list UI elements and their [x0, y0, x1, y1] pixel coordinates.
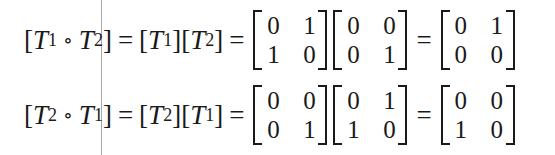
matrix-result: 0 1 0 0 [441, 10, 515, 70]
matrix-cell: 0 [489, 42, 505, 67]
matrix-cell: 0 [345, 42, 361, 67]
matrix-t2: 0 0 0 1 [253, 85, 327, 145]
symbol-t: T [148, 25, 163, 56]
matrix-cell: 0 [453, 13, 469, 38]
matrix-cell: 1 [381, 88, 397, 113]
symbol-t: T [33, 25, 48, 56]
compose-operator: ∘ [63, 103, 73, 127]
bracket-close: ] [172, 100, 181, 131]
matrix-bracket-left [253, 10, 262, 70]
matrix-cell: 1 [265, 42, 281, 67]
symbol-t: T [79, 100, 94, 131]
equation-lhs: [ T2 ∘ T1 ] = [T2] [T1] = [24, 100, 250, 131]
bracket-open: [ [181, 100, 190, 131]
matrix-t1: 0 1 1 0 [253, 10, 327, 70]
matrix-bracket-left [441, 85, 450, 145]
equals-sign: = [416, 100, 431, 131]
equals-sign: = [118, 100, 133, 131]
matrix-cell: 0 [453, 42, 469, 67]
matrix-cell: 0 [381, 117, 397, 142]
equation-composition-t2-t1: [ T2 ∘ T1 ] = [T2] [T1] = 0 0 0 1 0 1 1 … [24, 84, 518, 146]
matrix-cell: 0 [345, 13, 361, 38]
matrix-cell: 1 [381, 42, 397, 67]
matrix-cell: 1 [345, 117, 361, 142]
matrix-cell: 0 [345, 88, 361, 113]
compose-operator: ∘ [63, 28, 73, 52]
equals-sign: = [229, 100, 244, 131]
matrix-bracket-right [318, 10, 327, 70]
equation-lhs: [ T1 ∘ T2 ] = [T1] [T2] = [24, 25, 250, 56]
bracket-open: [ [181, 25, 190, 56]
symbol-t: T [33, 100, 48, 131]
matrix-result: 0 0 1 0 [441, 85, 515, 145]
matrix-t2: 0 0 0 1 [333, 10, 407, 70]
matrix-bracket-right [318, 85, 327, 145]
matrix-cell: 1 [301, 13, 317, 38]
matrix-bracket-right [506, 85, 515, 145]
bracket-open: [ [139, 100, 148, 131]
matrix-bracket-left [333, 10, 342, 70]
matrix-cell: 0 [301, 42, 317, 67]
matrix-cell: 1 [489, 13, 505, 38]
matrix-bracket-right [398, 10, 407, 70]
equals-sign: = [118, 25, 133, 56]
equals-sign: = [229, 25, 244, 56]
bracket-close: ] [103, 25, 112, 56]
equals-sign: = [416, 25, 431, 56]
matrix-cell: 0 [381, 13, 397, 38]
bracket-close: ] [172, 25, 181, 56]
matrix-cell: 0 [301, 88, 317, 113]
symbol-t: T [79, 25, 94, 56]
matrix-bracket-left [253, 85, 262, 145]
bracket-open: [ [24, 100, 33, 131]
matrix-cell: 1 [453, 117, 469, 142]
matrix-bracket-left [441, 10, 450, 70]
matrix-bracket-left [333, 85, 342, 145]
bracket-close: ] [103, 100, 112, 131]
matrix-cell: 0 [265, 117, 281, 142]
symbol-t: T [190, 25, 205, 56]
matrix-cell: 0 [489, 117, 505, 142]
matrix-bracket-right [506, 10, 515, 70]
matrix-cell: 1 [301, 117, 317, 142]
bracket-open: [ [139, 25, 148, 56]
bracket-close: ] [214, 25, 223, 56]
matrix-t1: 0 1 1 0 [333, 85, 407, 145]
matrix-cell: 0 [453, 88, 469, 113]
matrix-cell: 0 [489, 88, 505, 113]
bracket-close: ] [214, 100, 223, 131]
matrix-cell: 0 [265, 88, 281, 113]
equation-composition-t1-t2: [ T1 ∘ T2 ] = [T1] [T2] = 0 1 1 0 0 0 0 … [24, 9, 518, 71]
bracket-open: [ [24, 25, 33, 56]
symbol-t: T [190, 100, 205, 131]
matrix-bracket-right [398, 85, 407, 145]
matrix-cell: 0 [265, 13, 281, 38]
symbol-t: T [148, 100, 163, 131]
